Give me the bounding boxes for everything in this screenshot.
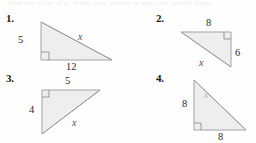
problem-2-triangle-svg xyxy=(178,22,250,70)
problem-2-label-vertical-leg: 6 xyxy=(235,48,240,59)
problem-1-triangle xyxy=(28,18,120,66)
problem-1-number: 1. xyxy=(6,13,14,24)
problem-2-label-horizontal-leg: 8 xyxy=(206,18,211,29)
problem-4-number: 4. xyxy=(156,73,164,84)
problem-4-label-horizontal-leg: 8 xyxy=(218,132,223,143)
problem-2-label-hypotenuse: x xyxy=(199,58,203,69)
problem-3-number: 3. xyxy=(6,73,14,84)
problem-1-label-vertical-leg: 5 xyxy=(18,35,23,46)
problem-3-label-hypotenuse: x xyxy=(72,118,76,129)
problem-3-label-horizontal-leg: 5 xyxy=(65,76,70,87)
problem-3-triangle xyxy=(32,78,112,140)
problem-3-triangle-svg xyxy=(32,78,112,140)
problem-1-label-horizontal-leg: 12 xyxy=(66,62,77,73)
problem-2-triangle xyxy=(178,22,250,70)
problem-3-label-vertical-leg: 4 xyxy=(29,105,34,116)
problem-1-label-hypotenuse: x xyxy=(78,32,82,43)
problem-4-label-hypotenuse: x xyxy=(204,90,208,101)
worksheet-page: Find the value of x. Write your answer i… xyxy=(0,0,256,143)
problem-2: 2. 8 6 x xyxy=(128,0,256,72)
problem-1: 1. 5 12 x xyxy=(0,0,128,72)
problem-4-label-vertical-leg: 8 xyxy=(182,99,187,110)
problem-3: 3. 5 4 x xyxy=(0,72,128,143)
problem-2-number: 2. xyxy=(156,13,164,24)
problem-4: 4. 8 8 x xyxy=(128,72,256,143)
problem-1-triangle-svg xyxy=(28,18,120,66)
